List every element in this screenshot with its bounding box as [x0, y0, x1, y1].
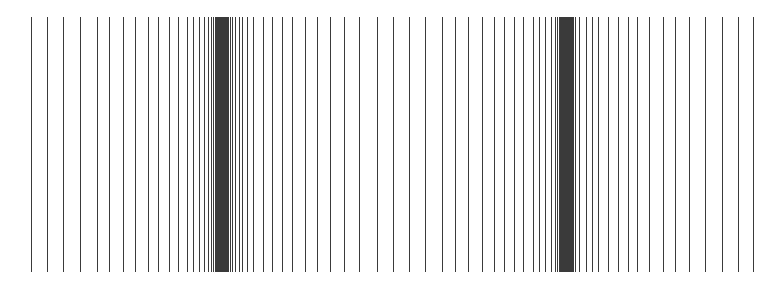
- vertical-line: [47, 17, 48, 272]
- vertical-line: [178, 17, 179, 272]
- vertical-line: [586, 17, 587, 272]
- vertical-line: [169, 17, 170, 272]
- vertical-line: [272, 17, 273, 272]
- vertical-line: [523, 17, 524, 272]
- vertical-line: [551, 17, 552, 272]
- vertical-line: [344, 17, 345, 272]
- vertical-line: [442, 17, 443, 272]
- vertical-line: [135, 17, 136, 272]
- vertical-line: [211, 17, 212, 272]
- vertical-line: [738, 17, 739, 272]
- vertical-line: [63, 17, 64, 272]
- line-pattern: [0, 0, 782, 286]
- vertical-line: [468, 17, 469, 272]
- vertical-line: [148, 17, 149, 272]
- vertical-line: [514, 17, 515, 272]
- vertical-line: [204, 17, 205, 272]
- vertical-line: [555, 17, 556, 272]
- vertical-line: [213, 17, 214, 272]
- vertical-line: [608, 17, 609, 272]
- vertical-line: [533, 17, 534, 272]
- vertical-line: [253, 17, 254, 272]
- vertical-line: [230, 17, 231, 272]
- vertical-line: [292, 17, 293, 272]
- vertical-line: [753, 17, 754, 272]
- vertical-line: [242, 17, 243, 272]
- vertical-line: [494, 17, 495, 272]
- vertical-line: [504, 17, 505, 272]
- vertical-line: [377, 17, 378, 272]
- vertical-line: [705, 17, 706, 272]
- vertical-line: [539, 17, 540, 272]
- vertical-line: [598, 17, 599, 272]
- vertical-line: [689, 17, 690, 272]
- vertical-line: [359, 17, 360, 272]
- vertical-line: [109, 17, 110, 272]
- vertical-line: [573, 17, 574, 272]
- vertical-line: [317, 17, 318, 272]
- vertical-line: [232, 17, 233, 272]
- vertical-line: [425, 17, 426, 272]
- vertical-line: [247, 17, 248, 272]
- vertical-line: [305, 17, 306, 272]
- vertical-line: [330, 17, 331, 272]
- vertical-line: [158, 17, 159, 272]
- vertical-line: [663, 17, 664, 272]
- vertical-line: [193, 17, 194, 272]
- vertical-line: [208, 17, 209, 272]
- vertical-line: [618, 17, 619, 272]
- vertical-line: [393, 17, 394, 272]
- vertical-line: [637, 17, 638, 272]
- vertical-line: [263, 17, 264, 272]
- vertical-line: [31, 17, 32, 272]
- vertical-line: [239, 17, 240, 272]
- vertical-line: [199, 17, 200, 272]
- vertical-line: [675, 17, 676, 272]
- vertical-line: [455, 17, 456, 272]
- vertical-line: [409, 17, 410, 272]
- vertical-line: [557, 17, 558, 272]
- vertical-line: [545, 17, 546, 272]
- vertical-line: [592, 17, 593, 272]
- vertical-line: [482, 17, 483, 272]
- vertical-line: [228, 17, 229, 272]
- vertical-line: [80, 17, 81, 272]
- vertical-line: [575, 17, 576, 272]
- vertical-line: [722, 17, 723, 272]
- vertical-line: [628, 17, 629, 272]
- vertical-line: [579, 17, 580, 272]
- vertical-line: [97, 17, 98, 272]
- vertical-line: [187, 17, 188, 272]
- vertical-line: [235, 17, 236, 272]
- vertical-line: [649, 17, 650, 272]
- vertical-line: [123, 17, 124, 272]
- vertical-line: [282, 17, 283, 272]
